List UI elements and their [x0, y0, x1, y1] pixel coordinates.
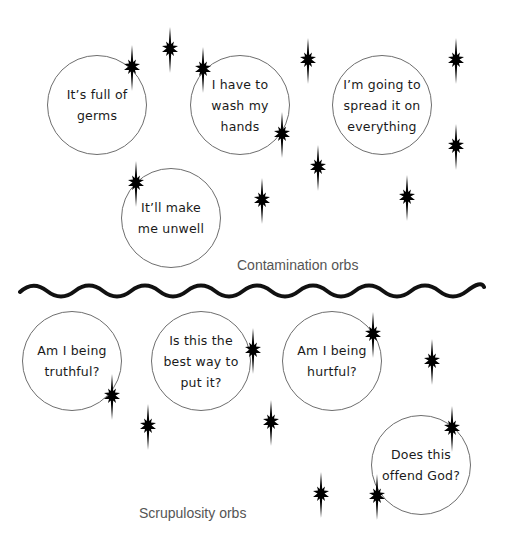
sparkle-star-icon	[298, 38, 318, 84]
orb-text: Am I being truthful?	[37, 340, 106, 382]
orb-text: Is this the best way to put it?	[163, 330, 238, 393]
orb-text: I have to wash my hands	[211, 74, 268, 137]
sparkle-star-icon	[422, 339, 442, 385]
contamination-caption: Contamination orbs	[237, 257, 358, 273]
orb-contamination-3: I’m going to spread it on everything	[332, 55, 432, 155]
sparkle-star-icon	[122, 45, 142, 91]
sparkle-star-icon	[272, 112, 292, 158]
sparkle-star-icon	[102, 374, 122, 420]
sparkle-star-icon	[160, 27, 180, 73]
sparkle-star-icon	[308, 145, 328, 191]
sparkle-star-icon	[363, 312, 383, 358]
orbs-diagram: It’s full of germs I have to wash my han…	[0, 0, 505, 550]
orb-text: It’s full of germs	[67, 84, 128, 126]
sparkle-star-icon	[193, 47, 213, 93]
sparkle-star-icon	[126, 161, 146, 207]
sparkle-star-icon	[442, 406, 462, 452]
sparkle-star-icon	[138, 404, 158, 450]
sparkle-star-icon	[446, 38, 466, 84]
scrupulosity-caption: Scrupulosity orbs	[139, 505, 246, 521]
sparkle-star-icon	[311, 472, 331, 518]
orb-scrupulosity-2: Is this the best way to put it?	[151, 311, 251, 411]
orb-text: I’m going to spread it on everything	[343, 74, 421, 137]
wavy-divider	[18, 276, 486, 306]
sparkle-star-icon	[252, 178, 272, 224]
sparkle-star-icon	[446, 124, 466, 170]
orb-text: Am I being hurtful?	[297, 340, 366, 382]
sparkle-star-icon	[243, 328, 263, 374]
sparkle-star-icon	[261, 400, 281, 446]
sparkle-star-icon	[397, 175, 417, 221]
orb-text: It’ll make me unwell	[138, 197, 204, 239]
sparkle-star-icon	[367, 474, 387, 520]
